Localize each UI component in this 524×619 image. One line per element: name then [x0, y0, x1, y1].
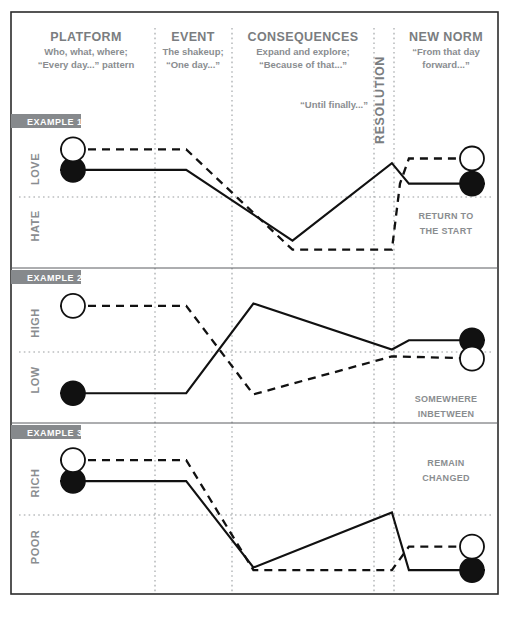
series-line-example-2-solid	[60, 304, 485, 394]
header-subtitle-consequences-1: “Because of that...”	[259, 59, 347, 70]
panel-note-example-3-1: CHANGED	[422, 473, 470, 483]
header-column-consequences: CONSEQUENCESExpand and explore;“Because …	[247, 30, 368, 110]
panel-note-example-1-0: RETURN TO	[418, 211, 473, 221]
header-column-event: EVENTThe shakeup;“One day...”	[162, 30, 223, 70]
panel-example-1: EXAMPLE 1LOVEHATERETURN TOTHE START	[11, 114, 494, 250]
series-start-marker-example-2-dashed	[61, 294, 85, 318]
series-end-marker-example-3-dashed	[460, 535, 484, 559]
header-subtitle-platform-1: “Every day...” pattern	[38, 59, 135, 70]
header-title-new_norm: NEW NORM	[409, 30, 483, 44]
axis-label-top-example-3: RICH	[29, 469, 41, 498]
series-end-marker-example-2-dashed	[460, 347, 484, 371]
header-subtitle-event-1: “One day...”	[166, 59, 220, 70]
panel-note-example-1-1: THE START	[420, 226, 473, 236]
panel-note-example-3-0: REMAIN	[427, 458, 464, 468]
header-footnote-consequences: “Until finally...”	[300, 99, 368, 110]
header-subtitle-event-0: The shakeup;	[162, 46, 223, 57]
example-tab-label-example-2: EXAMPLE 2	[27, 273, 83, 283]
panel-example-3: EXAMPLE 3RICHPOORREMAINCHANGED	[11, 423, 498, 582]
header-title-consequences: CONSEQUENCES	[247, 30, 358, 44]
header-column-platform: PLATFORMWho, what, where;“Every day...” …	[38, 30, 135, 70]
series-end-marker-example-3-solid	[460, 558, 484, 582]
series-end-marker-example-1-solid	[460, 172, 484, 196]
example-tab-label-example-1: EXAMPLE 1	[27, 117, 83, 127]
diagram-canvas: PLATFORMWho, what, where;“Every day...” …	[0, 0, 524, 619]
panel-note-example-2-1: INBETWEEN	[418, 409, 475, 419]
header-subtitle-new_norm-0: “From that day	[412, 46, 480, 57]
series-end-marker-example-1-dashed	[460, 147, 484, 171]
header-title-resolution: RESOLUTION	[373, 56, 387, 144]
axis-label-bottom-example-1: HATE	[29, 210, 41, 241]
axis-label-bottom-example-2: LOW	[29, 366, 41, 393]
header-column-resolution: RESOLUTION	[373, 56, 387, 144]
header-subtitle-new_norm-1: forward...”	[422, 59, 470, 70]
header-subtitle-platform-0: Who, what, where;	[44, 46, 127, 57]
example-tab-label-example-3: EXAMPLE 3	[27, 428, 83, 438]
series-start-marker-example-1-dashed	[61, 137, 85, 161]
axis-label-bottom-example-3: POOR	[29, 530, 41, 564]
axis-label-top-example-2: HIGH	[29, 308, 41, 338]
header-subtitle-consequences-0: Expand and explore;	[256, 46, 349, 57]
header-title-event: EVENT	[171, 30, 215, 44]
panel-note-example-2-0: SOMEWHERE	[415, 394, 478, 404]
series-start-marker-example-3-dashed	[61, 448, 85, 472]
header-title-platform: PLATFORM	[50, 30, 122, 44]
series-line-example-2-dashed	[60, 306, 485, 395]
story-structure-diagram: PLATFORMWho, what, where;“Every day...” …	[0, 0, 524, 619]
series-line-example-3-solid	[60, 481, 485, 570]
series-start-marker-example-2-solid	[61, 381, 85, 405]
axis-label-top-example-1: LOVE	[29, 153, 41, 185]
panel-example-2: EXAMPLE 2HIGHLOWSOMEWHEREINBETWEEN	[11, 268, 498, 419]
header-column-new_norm: NEW NORM“From that dayforward...”	[409, 30, 483, 70]
